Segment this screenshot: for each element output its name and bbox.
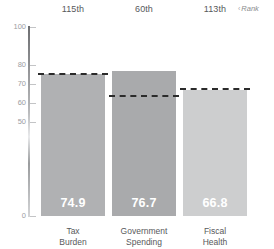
component-scores-bar-chart: 115th 60th 113th ‹Rank 100807060500 74.9… — [0, 0, 274, 249]
y-tick-0 — [30, 216, 36, 217]
y-tick-label-70: 70 — [4, 80, 26, 88]
y-tick-label-60: 60 — [4, 99, 26, 107]
bar-tax-burden[interactable]: 74.9 — [41, 74, 105, 216]
y-tick-label-100: 100 — [4, 23, 26, 31]
bar-value-label: 66.8 — [183, 196, 247, 210]
category-label-line: Fiscal — [165, 226, 265, 237]
y-tick-80 — [30, 65, 36, 66]
y-tick-label-0: 0 — [4, 212, 26, 220]
plot-area: 100807060500 74.976.766.8 TaxBurdenGover… — [0, 0, 274, 249]
category-label-fiscal-health: FiscalHealth — [165, 226, 265, 247]
y-tick-label-50: 50 — [4, 118, 26, 126]
average-reference-line — [38, 73, 108, 75]
category-label-line: Health — [165, 237, 265, 248]
bar-government-spending[interactable]: 76.7 — [112, 71, 176, 216]
y-tick-label-80: 80 — [4, 61, 26, 69]
y-tick-50 — [30, 122, 36, 123]
bar-fiscal-health[interactable]: 66.8 — [183, 90, 247, 216]
y-tick-60 — [30, 103, 36, 104]
bar-value-label: 74.9 — [41, 196, 105, 210]
bar-value-label: 76.7 — [112, 196, 176, 210]
average-reference-line — [109, 95, 179, 97]
y-tick-70 — [30, 84, 36, 85]
average-reference-line — [180, 88, 250, 90]
y-tick-100 — [30, 27, 36, 28]
